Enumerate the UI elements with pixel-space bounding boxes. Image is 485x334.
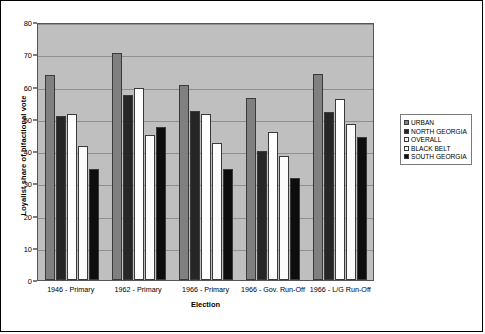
y-axis-tick-label: 20 (24, 212, 32, 221)
x-axis-tick-labels: 1946 - Primary1962 - Primary1966 - Prima… (37, 285, 374, 294)
bar[interactable] (201, 114, 211, 280)
legend-item[interactable]: SOUTH GEORGIA (404, 153, 467, 160)
bar[interactable] (212, 143, 222, 280)
bar-group (306, 24, 373, 280)
bar-group (172, 24, 239, 280)
y-axis-tick-label: 70 (24, 51, 32, 60)
bar[interactable] (145, 135, 155, 280)
chart-legend: URBANNORTH GEORGIAOVERALLBLACK BELTSOUTH… (400, 114, 472, 165)
chart-figure: Loyalist share of bifactional vote 01020… (0, 0, 483, 332)
y-axis-tick-label: 80 (24, 19, 32, 28)
legend-label: OVERALL (411, 136, 441, 143)
bar-groups (38, 24, 373, 280)
bar[interactable] (346, 124, 356, 280)
bar[interactable] (290, 178, 300, 280)
bar[interactable] (67, 114, 77, 280)
y-axis-tick-label: 10 (24, 244, 32, 253)
legend-item[interactable]: NORTH GEORGIA (404, 128, 467, 135)
legend-swatch-icon (404, 129, 409, 134)
bar[interactable] (279, 156, 289, 280)
bar[interactable] (313, 74, 323, 280)
bar[interactable] (335, 99, 345, 280)
bar[interactable] (156, 127, 166, 280)
legend-label: SOUTH GEORGIA (411, 153, 467, 160)
bar-group (105, 24, 172, 280)
legend-swatch-icon (404, 120, 409, 125)
bar[interactable] (56, 116, 66, 280)
bar[interactable] (268, 132, 278, 280)
y-axis-ticks: 01020304050607080 (1, 23, 37, 281)
bar[interactable] (246, 98, 256, 280)
bar[interactable] (179, 85, 189, 280)
x-axis-tick-label: 1946 - Primary (37, 285, 104, 294)
y-axis-tick-label: 50 (24, 115, 32, 124)
y-axis-tick-label: 30 (24, 180, 32, 189)
y-axis-tick-label: 40 (24, 148, 32, 157)
bar[interactable] (324, 112, 334, 280)
bar[interactable] (357, 137, 367, 281)
bar-group (239, 24, 306, 280)
bar[interactable] (190, 111, 200, 280)
bar[interactable] (112, 53, 122, 280)
legend-item[interactable]: BLACK BELT (404, 145, 467, 152)
x-axis-tick-label: 1966 - L/G Run-Off (307, 285, 374, 294)
bar[interactable] (89, 169, 99, 280)
legend-item[interactable]: OVERALL (404, 136, 467, 143)
y-axis-tick-label: 60 (24, 83, 32, 92)
legend-swatch-icon (404, 146, 409, 151)
x-axis-tick-label: 1966 - Primary (172, 285, 239, 294)
bar[interactable] (123, 95, 133, 280)
legend-label: NORTH GEORGIA (411, 128, 467, 135)
legend-label: URBAN (411, 119, 434, 126)
bar[interactable] (223, 169, 233, 280)
legend-item[interactable]: URBAN (404, 119, 467, 126)
legend-swatch-icon (404, 154, 409, 159)
x-axis-tick-label: 1962 - Primary (104, 285, 171, 294)
plot-area (37, 23, 374, 281)
bar[interactable] (257, 151, 267, 280)
bar[interactable] (45, 75, 55, 280)
legend-label: BLACK BELT (411, 145, 450, 152)
x-axis-tick-label: 1966 - Gov. Run-Off (239, 285, 306, 294)
x-axis-title: Election (37, 300, 374, 309)
bar-group (38, 24, 105, 280)
bar[interactable] (78, 146, 88, 280)
legend-swatch-icon (404, 137, 409, 142)
y-axis-tick-label: 0 (28, 277, 32, 286)
bar[interactable] (134, 88, 144, 280)
